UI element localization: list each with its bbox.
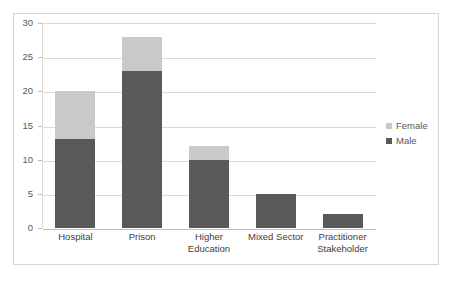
y-tick-mark-5 (38, 194, 42, 195)
x-axis-category-label: HigherEducation (176, 231, 243, 255)
legend-item-female[interactable]: Female (386, 118, 438, 133)
x-axis-category-label-line: Stakeholder (309, 243, 376, 255)
x-axis-category-label-line: Mixed Sector (242, 231, 309, 243)
square-icon (386, 123, 392, 129)
x-axis-category-label-line: Practitioner (309, 231, 376, 243)
x-axis-category-label-line: Hospital (42, 231, 109, 243)
y-axis-tick-label: 5 (28, 189, 33, 199)
y-tick-mark-25 (38, 57, 42, 58)
y-axis-tick-label: 0 (28, 223, 33, 233)
y-tick-mark-20 (38, 91, 42, 92)
y-axis-tick-label: 15 (22, 121, 33, 131)
y-tick-mark-0 (38, 228, 42, 229)
legend-item-male[interactable]: Male (386, 133, 438, 148)
y-axis-tick-label: 10 (22, 155, 33, 165)
plot-area (42, 23, 376, 228)
chart-legend: FemaleMale (386, 118, 438, 148)
legend-item-label: Female (396, 121, 428, 131)
y-axis: 051015202530 (0, 23, 33, 228)
y-axis-tick-label: 20 (22, 86, 33, 96)
legend-item-label: Male (396, 136, 417, 146)
gridline-0 (43, 229, 376, 230)
y-tick-mark-15 (38, 126, 42, 127)
y-tick-mark-10 (38, 160, 42, 161)
chart-figure: 051015202530 HospitalPrisonHigherEducati… (0, 0, 453, 282)
gridline-20 (43, 92, 376, 93)
x-axis-category-label: Prison (109, 231, 176, 243)
y-tick-mark-30 (38, 23, 42, 24)
x-axis-category-label: Mixed Sector (242, 231, 309, 243)
x-axis-category-label-line: Education (176, 243, 243, 255)
x-axis-category-label: Hospital (42, 231, 109, 243)
y-axis-tick-label: 30 (22, 18, 33, 28)
x-axis: HospitalPrisonHigherEducationMixed Secto… (42, 231, 376, 265)
gridline-5 (43, 195, 376, 196)
gridline-15 (43, 127, 376, 128)
square-icon (386, 138, 392, 144)
gridline-25 (43, 58, 376, 59)
x-axis-category-label-line: Higher (176, 231, 243, 243)
x-axis-category-label-line: Prison (109, 231, 176, 243)
y-axis-tick-label: 25 (22, 52, 33, 62)
gridline-10 (43, 161, 376, 162)
x-axis-category-label: PractitionerStakeholder (309, 231, 376, 255)
